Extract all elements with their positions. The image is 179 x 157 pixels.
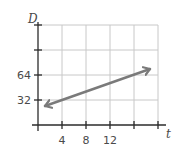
axes bbox=[32, 22, 166, 131]
x-axis-label: t bbox=[166, 127, 171, 141]
x-tick-label-12: 12 bbox=[103, 134, 117, 147]
y-tick-label-64: 64 bbox=[17, 69, 31, 82]
chart: D t 64 32 4 8 12 bbox=[0, 0, 179, 157]
y-axis-label: D bbox=[27, 12, 38, 26]
y-tick-label-32: 32 bbox=[17, 94, 31, 107]
x-tick-label-8: 8 bbox=[83, 134, 90, 147]
x-tick-label-4: 4 bbox=[59, 134, 66, 147]
grid bbox=[38, 25, 158, 125]
